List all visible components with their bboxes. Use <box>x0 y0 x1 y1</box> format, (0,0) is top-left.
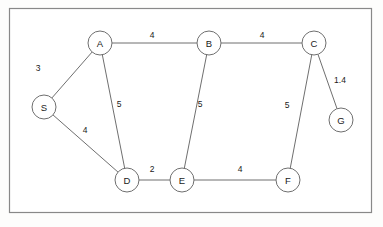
graph-node-b[interactable]: B <box>197 31 221 55</box>
edge-weight-a-d: 5 <box>117 99 122 109</box>
node-label-c: C <box>311 38 318 49</box>
graph-node-s[interactable]: S <box>32 95 56 119</box>
edge-weight-s-d: 4 <box>83 125 88 135</box>
graph-node-f[interactable]: F <box>276 168 300 192</box>
edge-weight-b-e: 5 <box>198 99 203 109</box>
graph-node-e[interactable]: E <box>170 168 194 192</box>
graph-svg: 34454551.424 SABCDEFG <box>0 0 383 227</box>
edge-weight-c-g: 1.4 <box>334 75 346 85</box>
node-label-g: G <box>337 115 344 126</box>
graph-node-a[interactable]: A <box>88 31 112 55</box>
node-label-s: S <box>41 102 47 113</box>
edge-weight-d-e: 2 <box>150 164 155 174</box>
edge-weight-s-a: 3 <box>36 63 41 73</box>
edge-weight-c-f: 5 <box>285 100 290 110</box>
node-label-a: A <box>97 38 104 49</box>
graph-node-d[interactable]: D <box>115 168 139 192</box>
node-label-f: F <box>285 175 291 186</box>
node-label-b: B <box>206 38 212 49</box>
node-label-e: E <box>179 175 185 186</box>
diagram-canvas: 34454551.424 SABCDEFG <box>0 0 383 227</box>
graph-node-c[interactable]: C <box>302 31 326 55</box>
graph-node-g[interactable]: G <box>329 108 353 132</box>
edge-weight-b-c: 4 <box>260 30 265 40</box>
edge-weight-a-b: 4 <box>150 30 155 40</box>
node-label-d: D <box>124 175 131 186</box>
edge-weight-e-f: 4 <box>238 164 243 174</box>
